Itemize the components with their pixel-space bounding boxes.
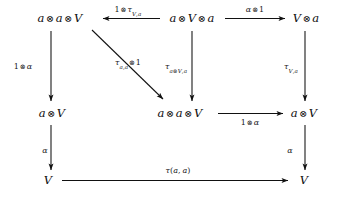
node-top-right: V⊗a — [293, 11, 320, 25]
edge-label-mid-horizontal: 1⊗α — [241, 118, 259, 127]
edge-label-mid-vertical: τa⊗V,a — [165, 62, 187, 71]
edge-label-bottom-left-vertical: α — [42, 146, 48, 155]
edge-label-bottom-right-vertical: α — [287, 146, 293, 155]
node-middle-center: a⊗a⊗V — [158, 106, 203, 120]
node-middle-right: a⊗V — [291, 106, 318, 120]
edge-label-diagonal: τa,a⊗1 — [115, 58, 141, 67]
node-bottom-right: V — [300, 173, 309, 187]
edge-label-right-vertical: τV,a — [284, 62, 298, 71]
commutative-diagram: a⊗a⊗V a⊗V⊗a V⊗a a⊗V a⊗a⊗V a⊗V V V 1⊗τV,a… — [0, 0, 339, 198]
edge-label-top-left: 1⊗τV,a — [115, 5, 142, 14]
node-middle-left: a⊗V — [39, 106, 66, 120]
edge-label-top-right: α⊗1 — [246, 5, 264, 14]
node-top-left: a⊗a⊗V — [38, 11, 83, 25]
node-bottom-left: V — [44, 173, 53, 187]
edge-label-bottom-horizontal: τ(a, a) — [165, 166, 190, 175]
edge-label-left-vertical: 1⊗α — [14, 62, 32, 71]
node-top-center: a⊗V⊗a — [170, 11, 215, 25]
